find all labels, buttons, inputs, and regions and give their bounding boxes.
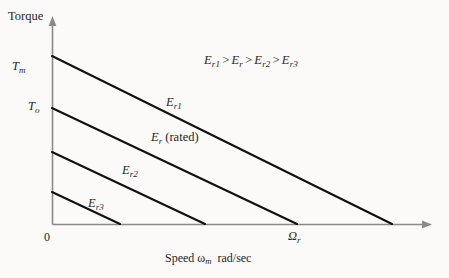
curve-label-er2: Er2: [122, 164, 138, 179]
y-axis-title: Torque: [8, 10, 43, 23]
curve-label-er2-base: E: [122, 163, 130, 177]
greater-than-icon-1: >: [220, 53, 231, 67]
ineq-term-4-base: E: [282, 53, 290, 67]
curve-label-er3-base: E: [88, 196, 96, 210]
curve-label-er1: Er1: [166, 96, 182, 111]
ineq-term-4-sub: r3: [290, 59, 298, 69]
curve-label-er2-sub: r2: [130, 169, 138, 179]
ineq-term-3-base: E: [254, 53, 262, 67]
x-tick-label-omega-r: Ωr: [288, 230, 301, 245]
x-axis: [53, 221, 433, 229]
y-tick-to-sub: o: [35, 105, 40, 115]
y-tick-label-to: To: [28, 100, 39, 115]
y-tick-to-base: T: [28, 99, 35, 113]
curve-label-er1-base: E: [166, 95, 174, 109]
curve-label-er3: Er3: [88, 197, 104, 212]
torque-speed-figure: Torque Tm To 0 Ωr Speed ωm rad/sec Er1>E…: [0, 0, 449, 278]
ineq-term-1-sub: r1: [212, 59, 220, 69]
ineq-term-1-base: E: [204, 53, 212, 67]
origin-label: 0: [44, 231, 50, 243]
y-tick-tm-base: T: [12, 59, 19, 73]
ineq-term-3-sub: r2: [262, 59, 270, 69]
curve-label-er-base: E: [151, 130, 159, 144]
greater-than-icon-3: >: [271, 53, 282, 67]
curve-label-er-suffix: (rated): [162, 130, 198, 144]
inequality-annotation: Er1>Er>Er2>Er3: [204, 54, 298, 69]
x-axis-title: Speed ωm rad/sec: [165, 252, 251, 266]
plot-canvas: [0, 0, 449, 278]
x-axis-title-suffix: rad/sec: [217, 251, 251, 265]
curve-label-er3-sub: r3: [96, 202, 104, 212]
y-tick-tm-sub: m: [19, 65, 26, 75]
curve-label-er1-sub: r1: [174, 101, 182, 111]
x-tick-omega-base: Ω: [288, 229, 297, 243]
curve-label-er-rated: Er (rated): [151, 131, 199, 146]
greater-than-icon-2: >: [243, 53, 254, 67]
y-tick-label-tm: Tm: [12, 60, 25, 75]
x-tick-omega-sub: r: [297, 235, 301, 245]
curve-er3: [52, 192, 120, 224]
x-axis-title-prefix: Speed: [165, 251, 194, 265]
